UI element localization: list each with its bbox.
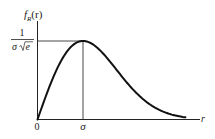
x-axis-label: r [201, 113, 205, 124]
pdf-curve [38, 41, 186, 120]
y-axis-label: fR(r) [24, 8, 43, 23]
y-tick-peak-label: 1 σ e [11, 27, 34, 52]
x-tick-zero: 0 [35, 121, 40, 132]
y-tick-den-e: e [26, 41, 31, 52]
rayleigh-pdf-chart: fR(r) 1 σ e 0 σ r [0, 0, 215, 139]
x-tick-sigma: σ [80, 120, 86, 132]
y-tick-numerator: 1 [20, 27, 25, 38]
y-tick-den-sigma: σ [12, 41, 18, 52]
